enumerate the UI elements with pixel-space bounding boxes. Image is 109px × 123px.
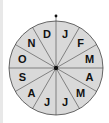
month-wheel: JFMAMJJASOND	[0, 0, 109, 123]
month-label: M	[85, 53, 94, 65]
center-hub	[54, 66, 58, 70]
month-label: F	[77, 37, 84, 49]
month-label: J	[62, 28, 68, 40]
month-label: M	[76, 87, 85, 99]
month-label: J	[44, 96, 50, 108]
month-label: O	[18, 53, 27, 65]
month-label: N	[27, 37, 35, 49]
month-label: J	[62, 96, 68, 108]
month-label: D	[43, 28, 51, 40]
month-label: A	[86, 71, 94, 83]
month-label: A	[27, 87, 35, 99]
pointer-dot	[55, 15, 58, 18]
month-label: S	[19, 71, 26, 83]
